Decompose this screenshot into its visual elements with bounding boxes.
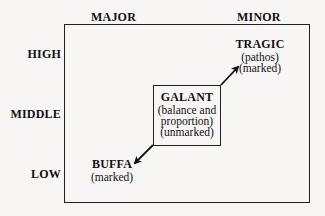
arrow-galant-to-tragic-icon [221, 67, 238, 85]
arrows-layer [0, 0, 325, 216]
arrow-galant-to-buffa-icon [135, 145, 153, 163]
